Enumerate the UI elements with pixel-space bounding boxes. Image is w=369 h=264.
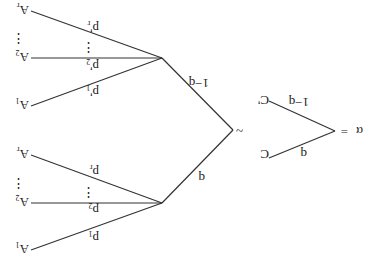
alpha-symbol: α [356,124,363,139]
outcome-label: Ar [17,1,29,18]
outcome-label: Ar [17,145,29,162]
label-q: q [300,147,307,162]
diagram-canvas: α = q 1−q C C' ~ q 1−q p1 p2 pr ⋮ A1 A2 … [0,0,369,264]
compound-label-1-q: 1−q [188,76,209,91]
prob-label: p2 [89,201,100,218]
compound-label-q: q [198,171,205,186]
outcome-C-prime: C' [258,93,269,108]
outcome-C: C [260,147,269,162]
compound-branch-1-q [162,58,233,130]
compound-branch-q [162,130,233,203]
prob-label: p'2 [86,57,99,74]
outcome-label: A2 [16,48,29,65]
equals-sign: = [341,124,348,139]
outcome-label: A1 [16,240,29,257]
ellipsis: ⋮ [82,41,95,56]
label-1-q: 1−q [288,95,309,110]
ellipsis: ⋮ [12,32,25,47]
outcome-label: A1 [16,96,29,113]
prob-label: p'1 [86,83,99,100]
outcome-label: A2 [16,193,29,210]
ellipsis: ⋮ [82,186,95,201]
prob-label: p1 [89,229,100,246]
lottery-tree-diagram: α = q 1−q C C' ~ q 1−q p1 p2 pr ⋮ A1 A2 … [0,0,369,264]
prob-label: p'r [87,19,99,36]
ellipsis: ⋮ [12,177,25,192]
equivalence-tilde: ~ [236,123,243,138]
